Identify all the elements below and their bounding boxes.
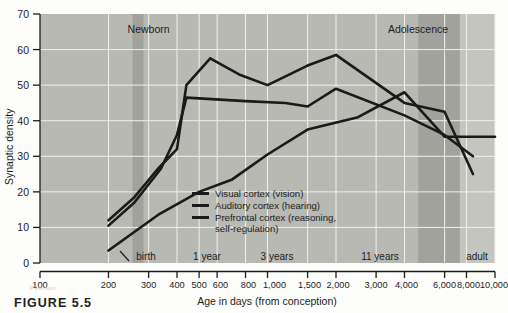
x-tick-label: 10,000 <box>480 280 508 290</box>
y-tick-label: 50 <box>17 79 29 91</box>
watermark-text: Pearson <box>30 285 56 291</box>
legend-label-prefrontal-cortex: Prefrontal cortex (reasoning, <box>215 212 336 223</box>
y-tick-label: 40 <box>17 115 29 127</box>
y-axis <box>33 14 40 263</box>
y-axis-title: Synaptic density <box>3 108 15 185</box>
x-tick-label: 300 <box>141 280 156 290</box>
inner-label-birth: birth <box>136 251 155 262</box>
y-tick-label: 20 <box>17 186 29 198</box>
x-tick-label: 3,000 <box>365 280 388 290</box>
x-tick-label: 500 <box>191 280 206 290</box>
y-tick-label: 10 <box>17 221 29 233</box>
x-tick-label: 600 <box>213 280 228 290</box>
x-tick-label: 1,500 <box>298 280 321 290</box>
band-adolescence <box>418 14 459 263</box>
y-tick-label: 0 <box>23 257 29 269</box>
y-tick-label: 70 <box>17 8 29 20</box>
y-tick-label: 30 <box>17 150 29 162</box>
band-label-adolescence: Adolescence <box>388 23 448 35</box>
x-axis-title: Age in days (from conception) <box>197 295 336 307</box>
x-tick-label: 400 <box>169 280 184 290</box>
x-tick-label: 800 <box>241 280 256 290</box>
x-tick-label: 4,000 <box>395 280 418 290</box>
inner-label-1-year: 1 year <box>193 251 221 262</box>
x-tick-labels: 100 200 300 400 500 600 800 1,000 1,500 … <box>32 280 508 290</box>
legend-label-auditory-cortex: Auditory cortex (hearing) <box>215 200 320 211</box>
synaptic-density-chart: 70 60 50 40 30 20 10 0 Synaptic density <box>0 0 508 313</box>
inner-label-3-years: 3 years <box>261 251 294 262</box>
x-tick-label: 200 <box>101 280 116 290</box>
inner-label-11-years: 11 years <box>361 251 399 262</box>
legend-label-visual-cortex: Visual cortex (vision) <box>215 188 303 199</box>
figure-caption: FIGURE 5.5 <box>14 296 92 310</box>
figure-root: 70 60 50 40 30 20 10 0 Synaptic density <box>0 0 508 313</box>
x-tick-label: 2,000 <box>327 280 350 290</box>
inner-label-adult: adult <box>466 251 488 262</box>
x-tick-label: 6,000 <box>433 280 456 290</box>
plot-background-right <box>460 14 495 263</box>
x-tick-label: 1,000 <box>263 280 286 290</box>
y-tick-label: 60 <box>17 44 29 56</box>
legend-label-prefrontal-cortex-line2: self-regulation) <box>215 223 278 234</box>
x-axis <box>40 272 495 279</box>
band-label-newborn: Newborn <box>128 23 170 35</box>
x-tick-label: 8,000 <box>457 280 480 290</box>
y-tick-labels: 70 60 50 40 30 20 10 0 <box>17 8 29 269</box>
